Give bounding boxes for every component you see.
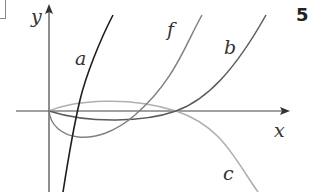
y-axis <box>45 4 53 192</box>
curve-f <box>49 15 202 137</box>
curve-a <box>63 15 113 192</box>
y-axis-label: y <box>31 7 42 26</box>
graph <box>0 0 311 192</box>
curve-f-label: f <box>167 20 174 39</box>
x-axis-label: x <box>274 121 285 140</box>
curve-c-label: c <box>223 164 234 183</box>
curve-a-label: a <box>75 49 86 68</box>
problem-number: 5 <box>296 6 309 24</box>
curve-b-label: b <box>224 38 236 57</box>
